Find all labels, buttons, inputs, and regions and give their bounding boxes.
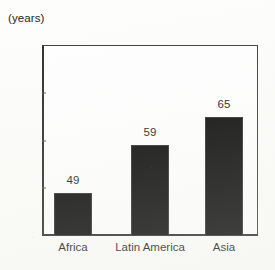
bar-value-asia: 65 [218,98,231,110]
y-tick-mark-70 [42,92,46,93]
category-label-africa: Africa [58,241,87,253]
y-axis-unit-label: (years) [8,12,44,24]
bar-africa [54,193,92,236]
bar-value-latin-america: 59 [144,126,157,138]
category-label-latin-america: Latin America [115,241,185,253]
y-tick-mark-60 [42,140,46,141]
y-tick-mark-50 [42,188,46,189]
category-label-asia: Asia [213,241,235,253]
bar-chart: (years) 4050607080 49Africa59Latin Ameri… [0,0,275,270]
bar-asia [205,117,243,236]
bar-latin-america [131,145,169,236]
bar-value-africa: 49 [67,174,80,186]
